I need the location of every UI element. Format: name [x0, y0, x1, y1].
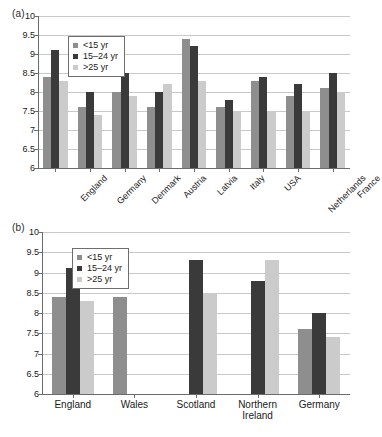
x-axis-tick — [159, 168, 160, 172]
bar — [59, 81, 67, 168]
x-axis-tick — [134, 394, 135, 398]
x-axis-label-line: Northern — [227, 399, 289, 410]
bar — [337, 92, 345, 168]
legend-swatch-icon — [77, 255, 82, 260]
x-axis-label: USA — [283, 173, 303, 193]
bar — [233, 111, 241, 168]
bar — [326, 337, 340, 394]
bar — [203, 293, 217, 394]
legend-item: 15–24 yr — [73, 51, 118, 62]
legend-label: <15 yr — [83, 40, 108, 51]
legend-item: <15 yr — [77, 252, 122, 263]
bar — [265, 260, 279, 394]
chart-legend: <15 yr15–24 yr>25 yr — [72, 248, 129, 289]
y-axis-labels: 66.577.588.599.510 — [4, 232, 42, 430]
bar — [286, 96, 294, 168]
legend-swatch-icon — [77, 266, 82, 271]
legend-item: >25 yr — [73, 62, 118, 73]
bar — [251, 81, 259, 168]
bar — [86, 92, 94, 168]
bar — [129, 96, 137, 168]
x-axis-label-line: Scotland — [165, 399, 227, 410]
x-axis-label-line: England — [42, 399, 104, 410]
bar — [51, 50, 59, 168]
bar — [251, 281, 265, 394]
bar — [189, 260, 203, 394]
bar — [80, 301, 94, 394]
plot-area-a: 66.577.588.599.510EnglandGermanyDenmarkA… — [4, 16, 350, 216]
x-axis-label-line: Ireland — [227, 410, 289, 421]
x-axis-label: Wales — [104, 399, 166, 410]
x-axis-label: NorthernIreland — [227, 399, 289, 421]
bar — [267, 111, 275, 168]
legend-item: >25 yr — [77, 274, 122, 285]
x-axis-label: Latvia — [215, 173, 239, 197]
legend-swatch-icon — [77, 277, 82, 282]
bar — [298, 329, 312, 394]
x-axis-tick — [319, 394, 320, 398]
legend-label: 15–24 yr — [87, 263, 122, 274]
bar — [329, 73, 337, 168]
bar — [294, 84, 302, 168]
bar — [94, 115, 102, 168]
bar — [198, 81, 206, 168]
x-axis-label: England — [79, 173, 109, 203]
bar — [112, 92, 120, 168]
bar — [312, 313, 326, 394]
bar — [320, 88, 328, 168]
legend-label: 15–24 yr — [83, 51, 118, 62]
bar — [52, 297, 66, 394]
bar — [225, 100, 233, 168]
bar — [78, 107, 86, 168]
bar — [121, 73, 129, 168]
x-axis-tick — [229, 168, 230, 172]
legend-label: >25 yr — [83, 62, 108, 73]
x-axis-label: Austria — [182, 173, 209, 200]
legend-swatch-icon — [73, 43, 78, 48]
legend-swatch-icon — [73, 54, 78, 59]
x-axis-tick — [258, 394, 259, 398]
bar — [147, 107, 155, 168]
bar — [155, 92, 163, 168]
chart-panel-b: (b) 66.577.588.599.510EnglandWalesScotla… — [0, 218, 354, 437]
x-axis-label: Germany — [288, 399, 350, 410]
bar — [182, 39, 190, 168]
legend-swatch-icon — [73, 65, 78, 70]
bar — [216, 107, 224, 168]
x-axis-label-line: Wales — [104, 399, 166, 410]
legend-item: 15–24 yr — [77, 263, 122, 274]
bar — [163, 84, 171, 168]
chart-panel-a: (a) 66.577.588.599.510EnglandGermanyDenm… — [0, 0, 354, 218]
bar — [43, 77, 51, 168]
x-axis-label: Denmark — [149, 173, 182, 206]
x-axis-label: Scotland — [165, 399, 227, 410]
x-axis-tick — [196, 394, 197, 398]
x-axis-tick — [333, 168, 334, 172]
bar — [259, 77, 267, 168]
x-axis-tick — [55, 168, 56, 172]
x-axis-tick — [73, 394, 74, 398]
bar — [113, 297, 127, 394]
legend-item: <15 yr — [73, 40, 118, 51]
plot-area-b: 66.577.588.599.510EnglandWalesScotlandNo… — [4, 232, 350, 430]
y-axis-labels: 66.577.588.599.510 — [4, 16, 38, 216]
legend-label: <15 yr — [87, 252, 112, 263]
x-axis-label-line: Germany — [288, 399, 350, 410]
x-axis-tick — [125, 168, 126, 172]
bar — [190, 46, 198, 168]
x-axis-label: Italy — [247, 173, 266, 192]
x-axis-tick — [90, 168, 91, 172]
x-axis-tick — [194, 168, 195, 172]
x-axis-tick — [263, 168, 264, 172]
bar — [302, 111, 310, 168]
x-axis-label: England — [42, 399, 104, 410]
legend-label: >25 yr — [87, 274, 112, 285]
chart-legend: <15 yr15–24 yr>25 yr — [68, 36, 125, 77]
x-axis-label: Germany — [115, 173, 148, 206]
x-axis-tick — [298, 168, 299, 172]
